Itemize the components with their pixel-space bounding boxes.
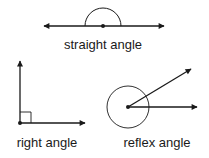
reflex-angle-label: reflex angle bbox=[123, 135, 190, 150]
reflex-angle-figure bbox=[107, 69, 197, 128]
straight-angle-label: straight angle bbox=[64, 37, 142, 52]
right-angle-label: right angle bbox=[17, 135, 78, 150]
straight-angle-figure bbox=[44, 8, 164, 28]
right-angle-figure bbox=[18, 61, 85, 125]
